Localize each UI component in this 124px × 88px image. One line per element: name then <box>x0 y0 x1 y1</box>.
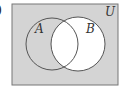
venn-diagram: U A B <box>0 0 124 88</box>
set-b-label: B <box>85 22 95 36</box>
universe-label: U <box>105 5 116 19</box>
set-a-label: A <box>34 22 44 36</box>
